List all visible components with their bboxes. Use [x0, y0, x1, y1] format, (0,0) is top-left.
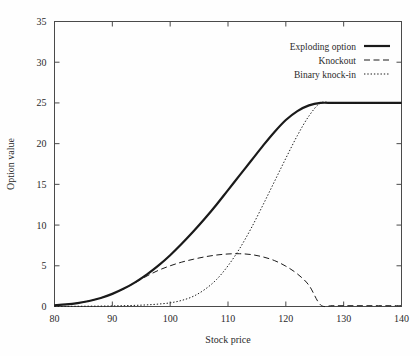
y-tick-label: 20	[37, 138, 47, 149]
option-value-line-chart: 05101520253035 8090100110120130140 Stock…	[0, 0, 420, 356]
x-tick-label: 90	[107, 313, 117, 324]
y-tick-label: 35	[37, 16, 47, 27]
y-tick-label: 25	[37, 97, 47, 108]
y-tick-label: 5	[42, 260, 47, 271]
legend-label-2: Binary knock-in	[294, 70, 356, 80]
y-tick-label: 0	[42, 301, 47, 312]
y-tick-label: 30	[37, 57, 47, 68]
x-tick-label: 120	[278, 313, 293, 324]
x-tick-label: 140	[394, 313, 409, 324]
x-tick-label: 110	[221, 313, 236, 324]
y-tick-label: 15	[37, 179, 47, 190]
x-axis-title: Stock price	[205, 334, 251, 345]
chart-page: 05101520253035 8090100110120130140 Stock…	[0, 0, 420, 356]
x-tick-label: 100	[163, 313, 178, 324]
chart-background	[0, 0, 420, 356]
legend-label-1: Knockout	[319, 56, 357, 66]
x-tick-label: 80	[50, 313, 60, 324]
y-axis-title: Option value	[5, 137, 16, 189]
y-tick-label: 10	[37, 220, 47, 231]
x-tick-label: 130	[336, 313, 351, 324]
legend-label-0: Exploding option	[290, 42, 356, 52]
